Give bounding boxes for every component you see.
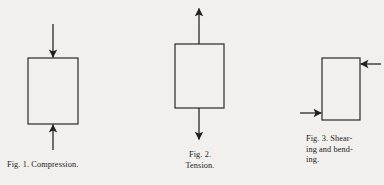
- figure-3-caption: Fig. 3. Shear- ing and bend- ing.: [306, 134, 378, 166]
- figure-2-group: [175, 9, 224, 140]
- fig2-block: [175, 44, 224, 108]
- fig1-block: [28, 58, 78, 124]
- figure-3-caption-line-1: Fig. 3. Shear-: [306, 134, 378, 145]
- figure-plate: Fig. 1. Compression. Fig. 2. Tension. Fi…: [0, 0, 384, 185]
- figure-3-caption-line-3: ing.: [306, 155, 378, 166]
- figure-3-group: [300, 58, 381, 120]
- figure-2-caption-line-1: Fig. 2.: [171, 150, 229, 161]
- figure-1-caption: Fig. 1. Compression.: [7, 160, 78, 171]
- figure-2-caption-line-2: Tension.: [171, 161, 229, 172]
- figure-1-caption-line-1: Fig. 1. Compression.: [7, 160, 78, 171]
- fig3-block: [322, 58, 360, 120]
- figure-2-caption: Fig. 2. Tension.: [171, 150, 229, 171]
- figure-1-group: [28, 24, 78, 150]
- figure-3-caption-line-2: ing and bend-: [306, 145, 378, 156]
